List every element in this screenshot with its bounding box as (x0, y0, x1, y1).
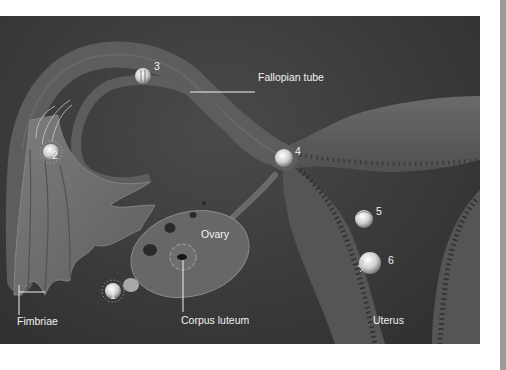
label-fimbriae: Fimbriae (17, 316, 58, 327)
uterine-wall-right (432, 190, 480, 344)
reproductive-tract-illustration (0, 16, 480, 344)
uterine-wall-left (283, 160, 385, 344)
label-uterus: Uterus (373, 315, 404, 326)
stage-number-6: 6 (388, 255, 394, 266)
stage-number-3: 3 (154, 61, 160, 72)
egg-stage-3 (135, 68, 151, 84)
stage-number-5: 5 (376, 206, 382, 217)
egg-stage-5 (355, 210, 373, 228)
stage-number-1: 1 (110, 290, 116, 301)
stage-number-4: 4 (295, 146, 301, 157)
vertical-scrollbar[interactable] (500, 0, 506, 370)
stage-number-2: 2 (52, 150, 58, 161)
label-ovary: Ovary (201, 229, 229, 240)
label-corpus-luteum: Corpus luteum (181, 315, 249, 326)
egg-stage-4 (275, 149, 293, 167)
label-fallopian-tube: Fallopian tube (258, 72, 324, 83)
diagram-panel (0, 16, 480, 344)
